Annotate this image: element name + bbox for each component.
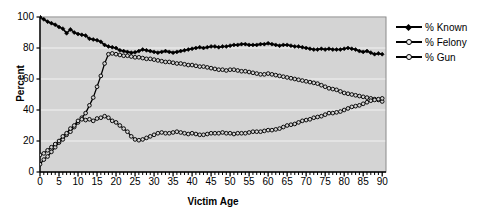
legend-item-known[interactable]: % Known (396, 20, 483, 34)
legend-item-gun[interactable]: % Gun (396, 50, 483, 64)
legend-marker-known-icon (396, 21, 422, 33)
chart-container: Percent Victim Age 020406080100 05101520… (0, 0, 483, 217)
legend-label-felony: % Felony (422, 37, 467, 48)
legend-marker-gun-icon (396, 51, 422, 63)
chart-legend: % Known % Felony % Gun (396, 20, 483, 65)
legend-label-gun: % Gun (422, 52, 456, 63)
legend-label-known: % Known (422, 22, 467, 33)
legend-item-felony[interactable]: % Felony (396, 35, 483, 49)
legend-marker-felony-icon (396, 36, 422, 48)
